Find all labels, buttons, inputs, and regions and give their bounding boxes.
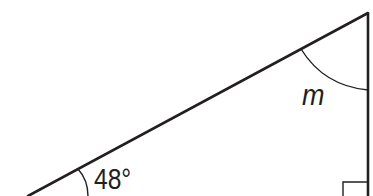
known-angle-label: 48° — [94, 164, 131, 194]
unknown-angle-label: m — [302, 80, 325, 110]
angle-48-arc — [78, 169, 88, 196]
right-angle-marker — [343, 182, 368, 196]
